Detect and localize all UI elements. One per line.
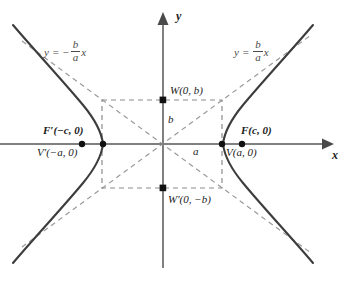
asymptote-left-denominator: a [71, 52, 81, 64]
asymptote-right-equals: = [239, 47, 252, 58]
asymptote-right-equation: y=bax [234, 39, 269, 63]
focus-left-label: F′(−c, 0) [43, 125, 83, 136]
vertex-left-point [100, 141, 106, 147]
asymptote-left-fraction: ba [71, 39, 81, 63]
y-axis-arrowhead [158, 12, 169, 25]
asymptote-positive-slope [22, 35, 311, 247]
asymptote-right-numerator: b [253, 39, 263, 52]
asymptote-right-variable: x [264, 47, 269, 58]
conjugate-top-label: W(0, b) [170, 85, 203, 96]
semi-minor-label: b [168, 114, 174, 125]
semi-major-label: a [193, 146, 199, 157]
conjugate-top-point [160, 97, 167, 104]
focus-right-label: F(c, 0) [241, 125, 272, 136]
conjugate-bottom-point [160, 185, 167, 192]
focus-left-point [79, 141, 85, 147]
asymptote-left-variable: x [81, 47, 86, 58]
vertex-left-label: V′(−a, 0) [37, 147, 77, 158]
asymptote-left-equals: = [49, 47, 62, 58]
y-axis-label: y [176, 10, 181, 22]
asymptote-left-equation: y=−bax [44, 39, 86, 63]
asymptote-left-sign: − [62, 47, 69, 58]
asymptote-right-fraction: ba [253, 39, 263, 63]
x-axis-label: x [332, 149, 338, 161]
conjugate-bottom-label: W′(0, −b) [168, 194, 211, 205]
hyperbola-figure: y x y=−bax y=bax F′(−c, 0) V′(−a, 0) F(c… [0, 0, 345, 289]
asymptote-right-denominator: a [253, 52, 263, 64]
vertex-right-label: V(a, 0) [226, 147, 257, 158]
asymptote-left-numerator: b [71, 39, 81, 52]
vertex-right-point [219, 141, 225, 147]
